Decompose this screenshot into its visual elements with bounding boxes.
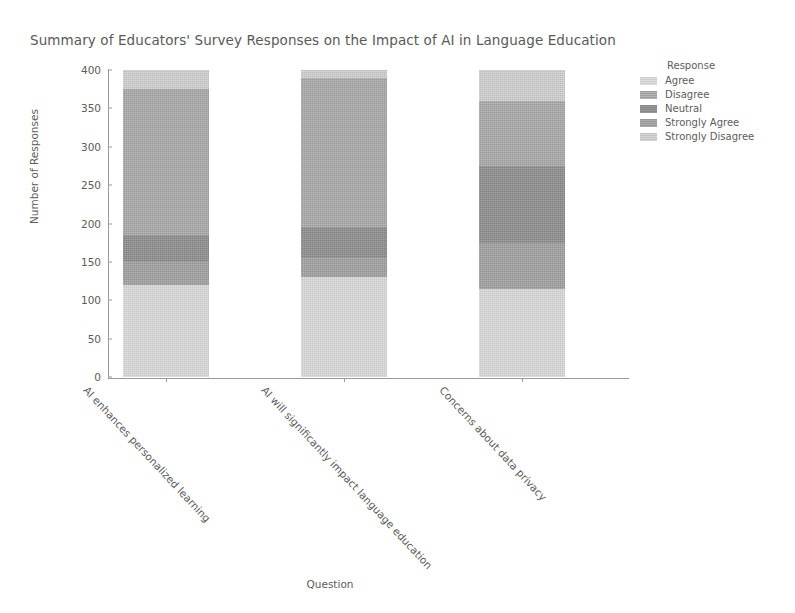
x-axis-title: Question — [0, 578, 660, 590]
x-tick-mark — [344, 378, 345, 382]
y-tick-mark — [108, 300, 112, 301]
y-tick-mark — [108, 70, 112, 71]
y-axis-title: Number of Responses — [28, 109, 40, 224]
legend-item[interactable]: Disagree — [640, 88, 790, 101]
legend: Response AgreeDisagreeNeutralStrongly Ag… — [640, 60, 790, 144]
bar-segment-strongly-agree[interactable] — [301, 258, 387, 277]
bar-segment-agree[interactable] — [123, 285, 209, 377]
y-tick-label: 100 — [81, 294, 108, 306]
bar-segment-disagree[interactable] — [301, 78, 387, 228]
y-tick-mark — [108, 261, 112, 262]
legend-item[interactable]: Neutral — [640, 102, 790, 115]
legend-swatch — [640, 91, 657, 99]
bar-segment-strongly-agree[interactable] — [479, 243, 565, 289]
y-tick-label: 50 — [88, 333, 108, 345]
page-title: Summary of Educators' Survey Responses o… — [30, 32, 616, 48]
x-tick-label: AI will significantly impact language ed… — [259, 384, 435, 571]
bar-segment-neutral[interactable] — [123, 235, 209, 262]
x-tick-label: AI enhances personalized learning — [81, 384, 213, 524]
x-tick-mark — [166, 378, 167, 382]
legend-label: Strongly Agree — [665, 117, 739, 128]
bar-segment-agree[interactable] — [301, 277, 387, 377]
legend-swatch — [640, 133, 657, 141]
y-tick-label: 300 — [81, 141, 108, 153]
legend-label: Strongly Disagree — [665, 131, 754, 142]
bar-segment-neutral[interactable] — [479, 166, 565, 243]
bar-segment-strongly-disagree[interactable] — [301, 70, 387, 78]
legend-label: Agree — [665, 75, 694, 86]
x-axis-spine — [108, 378, 629, 379]
y-tick-mark — [108, 377, 112, 378]
bar-segment-disagree[interactable] — [123, 89, 209, 235]
y-tick-label: 350 — [81, 102, 108, 114]
legend-swatch — [640, 105, 657, 113]
bar-segment-strongly-disagree[interactable] — [479, 70, 565, 101]
y-tick-label: 0 — [94, 371, 108, 383]
legend-item[interactable]: Strongly Agree — [640, 116, 790, 129]
y-tick-label: 250 — [81, 179, 108, 191]
plot-area: 050100150200250300350400 — [108, 70, 628, 377]
y-tick-mark — [108, 223, 112, 224]
y-tick-label: 400 — [81, 64, 108, 76]
y-tick-label: 200 — [81, 218, 108, 230]
legend-item[interactable]: Agree — [640, 74, 790, 87]
y-tick-mark — [108, 185, 112, 186]
legend-swatch — [640, 119, 657, 127]
y-tick-mark — [108, 108, 112, 109]
x-tick-label: Concerns about data privacy — [437, 384, 549, 503]
bar-segment-neutral[interactable] — [301, 227, 387, 258]
y-tick-label: 150 — [81, 256, 108, 268]
y-tick-mark — [108, 338, 112, 339]
legend-item[interactable]: Strongly Disagree — [640, 130, 790, 143]
chart-figure: Summary of Educators' Survey Responses o… — [0, 0, 795, 613]
bar-segment-strongly-agree[interactable] — [123, 262, 209, 285]
bar-segment-strongly-disagree[interactable] — [123, 70, 209, 89]
y-tick-mark — [108, 146, 112, 147]
bar-segment-agree[interactable] — [479, 289, 565, 377]
x-tick-mark — [522, 378, 523, 382]
bar-segment-disagree[interactable] — [479, 101, 565, 166]
legend-swatch — [640, 77, 657, 85]
legend-label: Disagree — [665, 89, 709, 100]
legend-items: AgreeDisagreeNeutralStrongly AgreeStrong… — [640, 74, 790, 143]
legend-label: Neutral — [665, 103, 702, 114]
legend-title: Response — [667, 60, 790, 71]
